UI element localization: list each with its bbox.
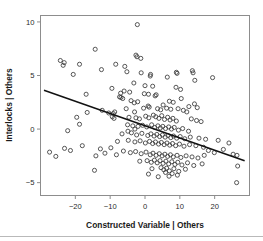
data-point: [192, 163, 196, 167]
data-point: [80, 144, 84, 148]
data-point: [169, 107, 173, 111]
data-point: [126, 123, 130, 127]
data-point: [135, 23, 139, 27]
data-point: [58, 58, 62, 62]
data-point: [182, 144, 186, 148]
data-point: [200, 162, 204, 166]
y-tick-label: 0: [30, 125, 34, 134]
data-point: [186, 129, 190, 133]
data-point: [110, 86, 114, 90]
data-point: [173, 162, 177, 166]
data-point: [165, 75, 169, 79]
data-point: [138, 159, 142, 163]
y-axis-ticks: [37, 22, 41, 183]
x-axis-tick-labels: −20−1001020: [69, 202, 219, 211]
data-point: [66, 129, 70, 133]
data-point: [139, 152, 143, 156]
data-point: [121, 149, 125, 153]
data-point: [204, 137, 208, 141]
data-point: [184, 154, 188, 158]
x-tick-label: 0: [143, 202, 147, 211]
y-tick-label: −5: [26, 178, 35, 187]
data-point: [151, 84, 155, 88]
data-point: [144, 150, 148, 154]
y-axis-tick-labels: −50510: [26, 18, 35, 188]
data-point: [134, 150, 138, 154]
data-point: [196, 156, 200, 160]
data-point: [221, 147, 225, 151]
data-point: [77, 122, 81, 126]
scatter-plot: −20−1001020 −50510 Constructed Variable …: [0, 0, 263, 241]
data-point: [199, 120, 203, 124]
data-point: [211, 76, 215, 80]
data-points: [48, 23, 240, 185]
data-point: [143, 141, 147, 145]
data-point: [193, 78, 197, 82]
data-point: [185, 161, 189, 165]
data-point: [190, 155, 194, 159]
y-tick-label: 10: [26, 18, 34, 27]
data-point: [179, 96, 183, 100]
data-point: [103, 151, 107, 155]
data-point: [160, 114, 164, 118]
data-point: [125, 70, 129, 74]
data-point: [128, 151, 132, 155]
data-point: [153, 94, 157, 98]
data-point: [180, 163, 184, 167]
data-point: [154, 93, 158, 97]
data-point: [142, 92, 146, 96]
data-point: [181, 126, 185, 130]
data-point: [172, 167, 176, 171]
data-point: [216, 138, 220, 142]
data-point: [188, 143, 192, 147]
data-point: [165, 106, 169, 110]
x-axis-title: Constructed Variable | Others: [86, 220, 204, 230]
data-point: [143, 84, 147, 88]
data-point: [123, 64, 127, 68]
x-tick-label: −10: [104, 202, 117, 211]
data-point: [174, 85, 178, 89]
data-point: [93, 47, 97, 51]
data-point: [175, 153, 179, 157]
data-point: [161, 161, 165, 165]
data-point: [115, 139, 119, 143]
data-point: [227, 141, 231, 145]
data-point: [236, 164, 240, 168]
data-point: [147, 105, 151, 109]
data-point: [92, 168, 96, 172]
data-point: [183, 167, 187, 171]
data-point: [146, 92, 150, 96]
y-axis-title: Interlocks | Others: [4, 68, 14, 142]
data-point: [176, 128, 180, 132]
data-point: [166, 115, 170, 119]
data-point: [139, 71, 143, 75]
x-tick-label: −20: [69, 202, 82, 211]
data-point: [174, 119, 178, 123]
data-point: [99, 68, 103, 72]
x-tick-label: 10: [176, 202, 184, 211]
data-point: [140, 131, 144, 135]
data-point: [114, 153, 118, 157]
data-point: [192, 102, 196, 106]
data-point: [77, 62, 81, 66]
data-point: [128, 90, 132, 94]
data-point: [179, 155, 183, 159]
data-point: [124, 107, 128, 111]
data-point: [109, 146, 113, 150]
data-point: [142, 106, 146, 110]
data-point: [119, 91, 123, 95]
data-point: [176, 107, 180, 111]
data-point: [171, 100, 175, 104]
data-point: [126, 138, 130, 142]
data-point: [146, 104, 150, 108]
data-point: [84, 92, 88, 96]
data-point: [161, 103, 165, 107]
data-point: [202, 153, 206, 157]
data-point: [189, 117, 193, 121]
data-point: [176, 160, 180, 164]
data-point: [167, 174, 171, 178]
data-point: [85, 110, 89, 114]
regression-line: [44, 90, 245, 160]
data-point: [127, 115, 131, 119]
data-point: [132, 81, 136, 85]
